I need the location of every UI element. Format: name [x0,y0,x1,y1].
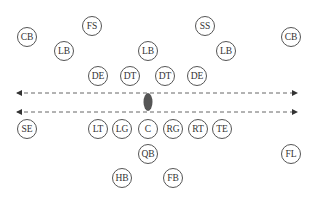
player-cb: CB [17,27,37,47]
player-fl: FL [281,144,301,164]
player-te: TE [212,119,232,139]
player-hb: HB [112,168,132,188]
player-se: SE [17,119,37,139]
player-de: DE [88,66,108,86]
player-cb: CB [281,27,301,47]
player-dt: DT [155,66,175,86]
player-lb: LB [216,41,236,61]
player-rt: RT [188,119,208,139]
football-icon [144,93,153,111]
player-lt: LT [88,119,108,139]
player-lb: LB [138,41,158,61]
player-dt: DT [120,66,140,86]
player-de: DE [187,66,207,86]
player-lb: LB [54,41,74,61]
player-c: C [138,119,158,139]
player-rg: RG [163,119,183,139]
player-ss: SS [195,16,215,36]
player-fs: FS [82,16,102,36]
field-lines [0,0,317,197]
player-fb: FB [163,168,183,188]
player-qb: QB [138,144,158,164]
player-lg: LG [112,119,132,139]
